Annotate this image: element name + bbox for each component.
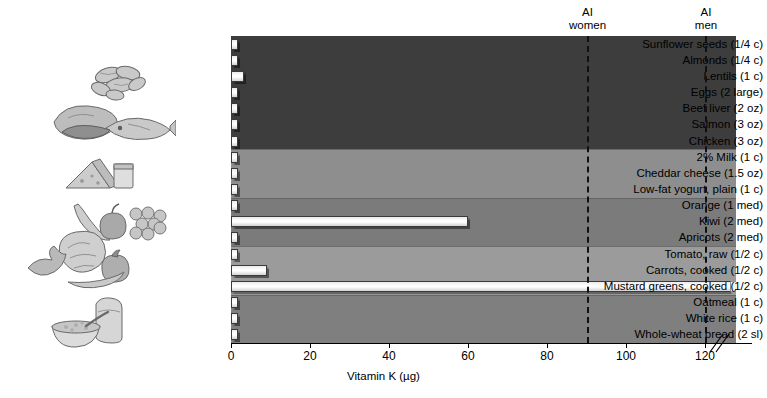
category-label-14: Carrots, cooked (1/2 c) [536,264,767,277]
bar-3 [231,87,238,98]
bar-8 [231,168,238,179]
x-tick-80 [547,343,548,348]
x-tick-label-100: 100 [616,349,636,363]
category-label-4: Beef liver (2 oz) [536,102,767,115]
x-tick-label-60: 60 [461,349,474,363]
reference-line-label-women: AIwomen [569,6,606,32]
x-tick-60 [468,343,469,348]
x-tick-label-0: 0 [228,349,235,363]
x-tick-100 [626,343,627,348]
category-label-10: Orange (1 med) [536,199,767,212]
x-tick-0 [231,343,232,348]
bar-12 [231,232,238,243]
axis-break-icon [706,330,738,356]
category-label-13: Tomato, raw (1/2 c) [536,248,767,261]
bar-18 [231,329,238,340]
category-label-1: Almonds (1/4 c) [536,54,767,67]
x-tick-label-40: 40 [382,349,395,363]
bar-11 [231,216,468,227]
x-tick-20 [310,343,311,348]
x-tick-label-20: 20 [303,349,316,363]
category-label-17: White rice (1 c) [536,312,767,325]
dairy-illustration [62,156,138,194]
meat-fish-illustration [48,98,176,146]
category-label-7: 2% Milk (1 c) [536,151,767,164]
x-tick-40 [389,343,390,348]
reference-line-women [587,36,589,343]
legumes-illustration [84,62,164,102]
category-label-0: Sunflower seeds (1/4 c) [536,38,767,51]
category-label-6: Chicken (3 oz) [536,135,767,148]
x-tick-label-80: 80 [540,349,553,363]
category-label-2: Lentils (1 c) [536,70,767,83]
bar-6 [231,136,238,147]
category-label-3: Eggs (2 large) [536,86,767,99]
bar-0 [231,39,238,50]
bar-16 [231,297,238,308]
bar-1 [231,55,238,66]
grains-illustration [42,296,152,352]
bar-4 [231,103,238,114]
bar-7 [231,152,238,163]
category-label-8: Cheddar cheese (1.5 oz) [536,167,767,180]
vegetables-illustration [24,226,160,292]
category-label-15: Mustard greens, cooked (1/2 c) [536,280,767,293]
bar-14 [231,265,267,276]
reference-line-men [705,36,707,343]
category-label-12: Apricots (2 med) [536,231,767,244]
category-label-9: Low-fat yogurt, plain (1 c) [536,183,767,196]
bar-17 [231,313,238,324]
vitamin-k-bar-chart: Sunflower seeds (1/4 c)Almonds (1/4 c)Le… [0,0,767,398]
category-label-5: Salmon (3 oz) [536,118,767,131]
bar-10 [231,200,238,211]
bar-5 [231,119,238,130]
category-label-11: Kiwi (2 med) [536,215,767,228]
category-label-16: Oatmeal (1 c) [536,296,767,309]
x-axis-title: Vitamin K (µg) [0,370,767,382]
reference-line-label-men: AImen [695,6,717,32]
bar-9 [231,184,238,195]
bar-13 [231,249,238,260]
bar-2 [231,71,244,82]
